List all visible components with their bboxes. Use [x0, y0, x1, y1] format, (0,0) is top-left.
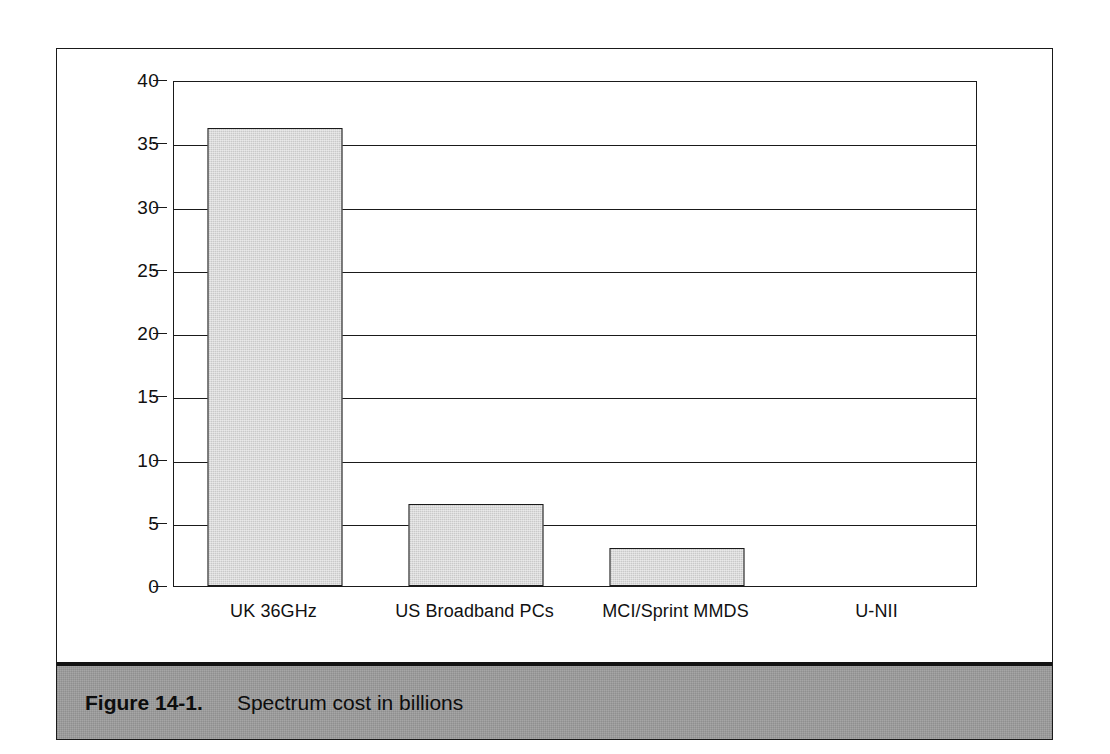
figure-caption-bar: Figure 14-1. Spectrum cost in billions — [57, 662, 1052, 739]
y-axis-tickmark — [153, 586, 167, 587]
y-axis-tick-label: 5 — [148, 513, 159, 535]
bars-group — [174, 82, 976, 586]
y-axis-tickmark — [153, 523, 167, 524]
plot-area — [173, 81, 977, 587]
bar-chart: 0510152025303540 UK 36GHzUS Broadband PC… — [57, 49, 1054, 664]
y-axis-tick-label: 15 — [137, 386, 159, 408]
y-axis-tickmark — [153, 333, 167, 334]
figure-container: 0510152025303540 UK 36GHzUS Broadband PC… — [56, 48, 1053, 740]
y-axis-tickmark — [153, 270, 167, 271]
caption-title: Spectrum cost in billions — [237, 691, 463, 715]
y-axis-tick-label: 25 — [137, 260, 159, 282]
y-axis-tick-label: 0 — [148, 576, 159, 598]
x-axis-tick-label: U-NII — [855, 601, 898, 622]
y-axis-tickmark — [153, 396, 167, 397]
bar-slot — [576, 82, 777, 586]
bar — [207, 128, 342, 586]
x-axis-tick-label: MCI/Sprint MMDS — [602, 601, 749, 622]
bar-slot — [174, 82, 375, 586]
y-axis-tick-label: 35 — [137, 133, 159, 155]
y-axis-tick-label: 30 — [137, 197, 159, 219]
y-axis-tick-label: 10 — [137, 450, 159, 472]
y-axis-tick-label: 40 — [137, 70, 159, 92]
caption-figure-number: Figure 14-1. — [85, 691, 203, 715]
y-axis-tickmark — [153, 207, 167, 208]
x-axis-tick-label: US Broadband PCs — [395, 601, 554, 622]
y-axis: 0510152025303540 — [57, 81, 167, 587]
y-axis-tickmark — [153, 80, 167, 81]
bar — [609, 548, 744, 586]
bar-slot — [375, 82, 576, 586]
y-axis-tickmark — [153, 460, 167, 461]
y-axis-tickmark — [153, 143, 167, 144]
bar-slot — [777, 82, 978, 586]
bar — [408, 504, 543, 586]
x-axis: UK 36GHzUS Broadband PCsMCI/Sprint MMDSU… — [173, 601, 977, 641]
y-axis-tick-label: 20 — [137, 323, 159, 345]
x-axis-tick-label: UK 36GHz — [230, 601, 317, 622]
